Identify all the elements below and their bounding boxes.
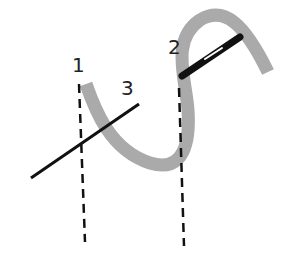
- label-3: 3: [121, 76, 134, 100]
- label-2: 2: [168, 35, 181, 59]
- dashed-line-1: [79, 84, 85, 242]
- needle-2: [182, 37, 240, 76]
- needle-thread-diagram: 1 2 3: [0, 0, 302, 259]
- label-1: 1: [72, 53, 85, 77]
